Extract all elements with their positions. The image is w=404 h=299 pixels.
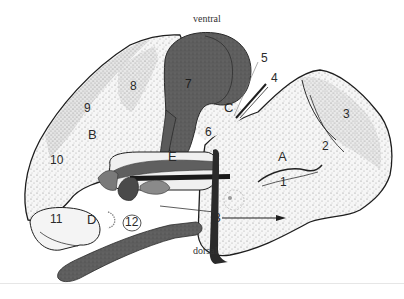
region-label-d: D bbox=[87, 213, 96, 226]
region-label-c: C bbox=[224, 101, 233, 114]
structure-label-2: 2 bbox=[322, 140, 329, 152]
region-label-b: B bbox=[88, 128, 97, 141]
structure-label-12: 12 bbox=[125, 216, 138, 228]
structure-label-9: 9 bbox=[84, 102, 91, 114]
structure-label-3-upper: 3 bbox=[343, 108, 350, 120]
orientation-ventral-label: ventral bbox=[193, 14, 221, 24]
orientation-dorsal-label: dorsal bbox=[193, 246, 217, 256]
structure-label-10: 10 bbox=[50, 154, 63, 166]
structure-label-6: 6 bbox=[205, 126, 212, 138]
anatomical-figure: ventral dorsal A B C D E 1 2 3 3 4 5 6 7… bbox=[0, 0, 404, 299]
region-label-a: A bbox=[278, 150, 287, 163]
structure-label-7: 7 bbox=[185, 78, 192, 90]
structure-label-5: 5 bbox=[261, 52, 268, 64]
region-label-e: E bbox=[168, 150, 177, 163]
structure-label-1: 1 bbox=[280, 176, 287, 188]
structure-label-3-lower: 3 bbox=[214, 212, 221, 224]
structure-label-8: 8 bbox=[130, 80, 137, 92]
structure-label-11: 11 bbox=[50, 213, 62, 225]
structure-label-4: 4 bbox=[271, 72, 278, 84]
bottom-divider bbox=[0, 283, 404, 284]
